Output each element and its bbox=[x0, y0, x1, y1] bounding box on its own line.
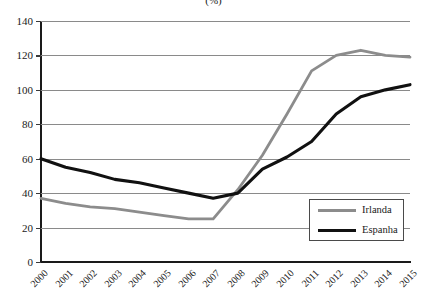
legend-label-espanha: Espanha bbox=[362, 223, 398, 237]
y-axis-label: 0 bbox=[3, 257, 33, 268]
y-axis-label: 20 bbox=[3, 223, 33, 234]
x-axis-label: 2004 bbox=[120, 268, 148, 296]
y-axis-tick bbox=[36, 262, 41, 263]
x-axis-label: 2008 bbox=[219, 268, 247, 296]
chart-title: (%) bbox=[0, 0, 427, 6]
x-axis-label: 2000 bbox=[22, 268, 50, 296]
chart-figure: (%) 020406080100120140 20002001200220032… bbox=[0, 0, 427, 302]
legend-item-0: Irlanda bbox=[310, 200, 405, 221]
x-axis-label: 2009 bbox=[243, 268, 271, 296]
x-axis-label: 2002 bbox=[71, 268, 99, 296]
legend-label-irlanda: Irlanda bbox=[362, 203, 392, 217]
y-axis-label: 140 bbox=[3, 16, 33, 27]
x-axis-label: 2014 bbox=[366, 268, 394, 296]
y-axis-label: 40 bbox=[3, 188, 33, 199]
legend-swatch-espanha bbox=[318, 229, 356, 232]
legend-item-1: Espanha bbox=[310, 220, 405, 241]
y-axis-label: 100 bbox=[3, 85, 33, 96]
x-axis-label: 2003 bbox=[96, 268, 124, 296]
x-axis-label: 2006 bbox=[169, 268, 197, 296]
y-axis-label: 60 bbox=[3, 154, 33, 165]
y-axis-label: 120 bbox=[3, 50, 33, 61]
legend-swatch-irlanda bbox=[318, 209, 356, 212]
x-axis-label: 2012 bbox=[317, 268, 345, 296]
x-axis-label: 2001 bbox=[46, 268, 74, 296]
x-axis-label: 2007 bbox=[194, 268, 222, 296]
x-axis-label: 2010 bbox=[268, 268, 296, 296]
x-axis-label: 2005 bbox=[145, 268, 173, 296]
series-line-espanha bbox=[41, 85, 410, 199]
x-axis-label: 2011 bbox=[292, 268, 320, 296]
x-axis-label: 2013 bbox=[342, 268, 370, 296]
y-axis-label: 80 bbox=[3, 119, 33, 130]
series-line-irlanda bbox=[41, 50, 410, 219]
x-axis-label: 2015 bbox=[391, 268, 419, 296]
legend: Irlanda Espanha bbox=[309, 199, 404, 241]
